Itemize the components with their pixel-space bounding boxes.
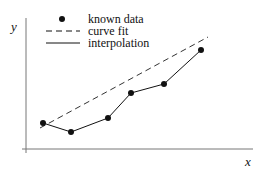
chart: y x known data curve fit interpolation (0, 0, 256, 173)
data-point (161, 81, 167, 87)
legend-label-interpolation: interpolation (88, 36, 149, 50)
curve-fit-line (40, 37, 208, 128)
legend-marker-icon (59, 16, 65, 22)
x-axis-label: x (244, 154, 251, 169)
legend: known data curve fit interpolation (46, 12, 149, 50)
data-point (68, 129, 74, 135)
data-point (40, 120, 46, 126)
y-axis-label: y (9, 19, 17, 34)
known-data-points (40, 47, 204, 135)
data-point (128, 90, 134, 96)
data-point (105, 115, 111, 121)
data-point (198, 47, 204, 53)
interpolation-line (43, 50, 201, 132)
